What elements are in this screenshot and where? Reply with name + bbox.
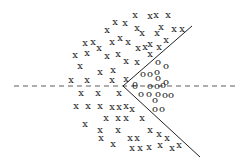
- x-point: x: [156, 42, 162, 52]
- x-point: x: [129, 143, 135, 153]
- o-point: o: [138, 89, 144, 99]
- x-point: x: [156, 129, 162, 139]
- x-point: x: [95, 88, 101, 98]
- o-point: o: [163, 61, 169, 71]
- o-point: o: [140, 69, 146, 79]
- x-point: x: [104, 25, 110, 35]
- x-point: x: [103, 113, 109, 123]
- x-point: x: [85, 101, 91, 111]
- o-point: o: [147, 69, 153, 79]
- x-point: x: [72, 50, 78, 60]
- x-point: x: [123, 56, 129, 66]
- o-point: o: [152, 104, 158, 114]
- x-point: x: [157, 140, 163, 150]
- x-point: x: [97, 101, 103, 111]
- x-point: x: [68, 75, 74, 85]
- x-point: x: [110, 139, 116, 149]
- x-point: x: [84, 75, 90, 85]
- x-point: x: [117, 33, 123, 43]
- x-point: x: [77, 61, 83, 71]
- x-point: x: [122, 18, 128, 28]
- x-point: x: [109, 75, 115, 85]
- x-point: x: [176, 140, 182, 150]
- x-point: x: [115, 49, 121, 59]
- x-point: x: [169, 143, 175, 153]
- x-point: x: [123, 113, 129, 123]
- x-point: x: [139, 28, 145, 38]
- x-point: x: [134, 57, 140, 67]
- o-point: o: [159, 104, 165, 114]
- x-point: x: [153, 10, 159, 20]
- x-point: x: [97, 67, 103, 77]
- x-point: x: [179, 24, 185, 34]
- x-point: x: [78, 88, 84, 98]
- x-point: x: [96, 43, 102, 53]
- x-point: x: [109, 102, 115, 112]
- x-point: x: [112, 17, 118, 27]
- x-point: x: [116, 102, 122, 112]
- x-point: x: [163, 35, 169, 45]
- x-point: x: [139, 113, 145, 123]
- x-point: x: [123, 101, 129, 111]
- x-point: x: [165, 10, 171, 20]
- x-point: x: [73, 101, 79, 111]
- x-point: x: [147, 49, 153, 59]
- x-point: x: [146, 142, 152, 152]
- x-point: x: [123, 74, 129, 84]
- x-point: x: [84, 48, 90, 58]
- x-point: x: [132, 10, 138, 20]
- x-point: x: [90, 37, 96, 47]
- o-point: o: [168, 90, 174, 100]
- x-point: x: [147, 125, 153, 135]
- x-point: x: [115, 125, 121, 135]
- x-point: x: [82, 119, 88, 129]
- x-point: x: [116, 88, 122, 98]
- x-point: x: [171, 24, 177, 34]
- x-point: x: [109, 37, 115, 47]
- x-point: x: [137, 143, 143, 153]
- x-point: x: [158, 22, 164, 32]
- x-point: x: [125, 37, 131, 47]
- x-point: x: [135, 43, 141, 53]
- x-point: x: [104, 51, 110, 61]
- x-point: x: [115, 113, 121, 123]
- x-point: x: [98, 133, 104, 143]
- theta-point: θ: [132, 81, 138, 91]
- x-point: x: [147, 11, 153, 21]
- diagram-canvas: xxxxxxxxxxxxxxxxxxxxxxxxxxxxxxxxxxxxxxxx…: [0, 0, 246, 165]
- x-point: x: [129, 104, 135, 114]
